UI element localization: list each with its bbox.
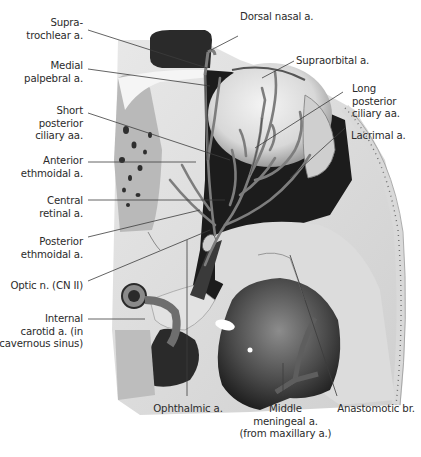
- label-dorsal-nasal-artery: Dorsal nasal a.: [240, 11, 313, 24]
- label-supratrochlear-artery: Supra- trochlear a.: [26, 17, 83, 42]
- label-posterior-ethmoidal-artery: Posterior ethmoidal a.: [21, 236, 83, 261]
- label-middle-meningeal-artery: Middle meningeal a. (from maxillary a.): [238, 403, 333, 441]
- anatomy-figure: Supra- trochlear a. Medial palpebral a. …: [0, 0, 421, 457]
- label-central-retinal-artery: Central retinal a.: [39, 195, 83, 220]
- label-anterior-ethmoidal-artery: Anterior ethmoidal a.: [21, 155, 83, 180]
- label-supraorbital-artery: Supraorbital a.: [296, 55, 369, 68]
- label-optic-nerve: Optic n. (CN II): [10, 280, 83, 293]
- label-ophthalmic-artery: Ophthalmic a.: [148, 403, 228, 416]
- label-medial-palpebral-artery: Medial palpebral a.: [24, 60, 83, 85]
- label-short-posterior-ciliary-arteries: Short posterior ciliary aa.: [35, 105, 83, 143]
- label-long-posterior-ciliary-arteries: Long posterior ciliary aa.: [352, 83, 400, 121]
- frontal-sinus: [150, 30, 212, 68]
- label-lacrimal-artery: Lacrimal a.: [351, 130, 406, 143]
- label-anastomotic-branch: Anastomotic br.: [334, 403, 418, 416]
- label-internal-carotid-artery: Internal carotid a. (in cavernous sinus): [0, 313, 83, 351]
